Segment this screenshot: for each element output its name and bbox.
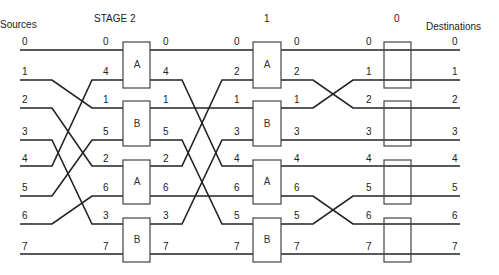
stage2-output-label: 3 <box>163 211 169 221</box>
stage2-output-label: 6 <box>163 183 169 193</box>
destination-label: 2 <box>452 95 458 105</box>
destination-label: 7 <box>452 242 458 252</box>
stage1-output-label: 0 <box>294 37 300 47</box>
stage1-input-label: 4 <box>234 154 240 164</box>
stage0-box-1 <box>384 42 411 88</box>
stage1-input-label: 3 <box>234 127 240 137</box>
source-label: 5 <box>22 183 28 193</box>
stage1-output-label: 3 <box>294 127 300 137</box>
destination-label: 4 <box>452 154 458 164</box>
destination-label: 3 <box>452 127 458 137</box>
stage1-box-label: A <box>253 177 281 187</box>
network-diagram <box>0 0 499 275</box>
source-label: 4 <box>22 154 28 164</box>
stage1-box-label: A <box>253 60 281 70</box>
stage2-input-label: 0 <box>103 37 109 47</box>
stage0-input-label: 3 <box>366 127 372 137</box>
stage2-input-label: 1 <box>103 95 109 105</box>
stage1-input-label: 0 <box>234 37 240 47</box>
stage0-input-label: 7 <box>366 242 372 252</box>
stage1-input-label: 1 <box>234 95 240 105</box>
stage1-output-label: 6 <box>294 183 300 193</box>
stage1-input-label: 6 <box>234 183 240 193</box>
sources-header: Sources <box>0 20 37 30</box>
stage1-box-label: B <box>253 235 281 245</box>
stage2-output-label: 5 <box>163 127 169 137</box>
stage2-box-label: B <box>123 119 151 129</box>
source-label: 6 <box>22 211 28 221</box>
stage0-input-label: 5 <box>366 183 372 193</box>
destination-label: 5 <box>452 183 458 193</box>
stage2-box-label: A <box>123 60 151 70</box>
source-label: 0 <box>22 37 28 47</box>
stage1-output-label: 7 <box>294 242 300 252</box>
stage1-input-label: 2 <box>234 67 240 77</box>
stage1-box-label: B <box>253 119 281 129</box>
stage2-input-label: 4 <box>103 67 109 77</box>
stage0-input-label: 0 <box>366 37 372 47</box>
destination-label: 6 <box>452 211 458 221</box>
destination-label: 0 <box>452 37 458 47</box>
stage2-header: STAGE 2 <box>94 14 136 24</box>
stage2-input-label: 6 <box>103 183 109 193</box>
stage2-output-label: 4 <box>163 67 169 77</box>
stage1-input-label: 7 <box>234 242 240 252</box>
stage0-input-label: 1 <box>366 67 372 77</box>
stage1-output-label: 2 <box>294 67 300 77</box>
stage2-output-label: 2 <box>163 154 169 164</box>
stage2-output-label: 0 <box>163 37 169 47</box>
stage2-output-label: 1 <box>163 95 169 105</box>
stage0-input-label: 6 <box>366 211 372 221</box>
stage1-output-label: 4 <box>294 154 300 164</box>
stage2-input-label: 5 <box>103 127 109 137</box>
stage0-header: 0 <box>394 14 400 24</box>
stage1-header: 1 <box>264 14 270 24</box>
stage1-output-label: 5 <box>294 211 300 221</box>
stage2-input-label: 2 <box>103 154 109 164</box>
stage2-output-label: 7 <box>163 242 169 252</box>
stage2-input-label: 7 <box>103 242 109 252</box>
source-label: 7 <box>22 242 28 252</box>
source-label: 3 <box>22 127 28 137</box>
source-label: 2 <box>22 95 28 105</box>
stage1-output-label: 1 <box>294 95 300 105</box>
stage2-box-label: B <box>123 235 151 245</box>
stage2-box-label: A <box>123 177 151 187</box>
source-label: 1 <box>22 67 28 77</box>
destinations-header: Destinations <box>426 22 481 32</box>
stage0-input-label: 4 <box>366 154 372 164</box>
stage2-input-label: 3 <box>103 211 109 221</box>
destination-label: 1 <box>452 67 458 77</box>
stage1-input-label: 5 <box>234 211 240 221</box>
stage0-input-label: 2 <box>366 95 372 105</box>
